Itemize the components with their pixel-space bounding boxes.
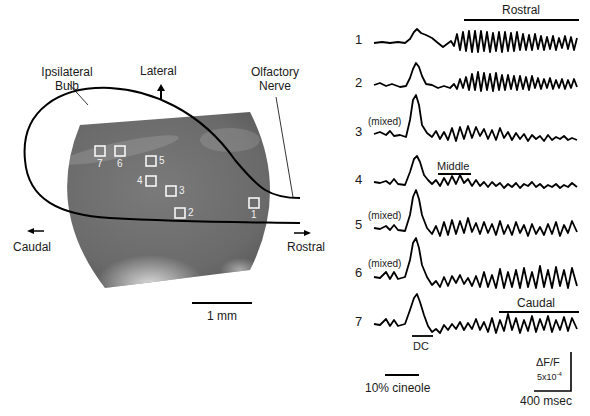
mixed-tag: (mixed) <box>368 258 401 269</box>
rostral-direction-label: Rostral <box>287 240 325 254</box>
label-line: Bulb <box>37 79 97 93</box>
caudal-direction-label: Caudal <box>13 240 51 254</box>
caudal-section-label: Caudal <box>517 296 555 310</box>
roi-label: 6 <box>117 158 123 169</box>
trace-number: 2 <box>355 75 362 90</box>
stimulus-label: 10% cineole <box>365 381 430 395</box>
lateral-label: Lateral <box>140 64 177 78</box>
mixed-tag: (mixed) <box>368 210 401 221</box>
scale-y-exponent: -4 <box>557 371 562 377</box>
trace-number: 6 <box>355 265 362 280</box>
bulb-image <box>40 100 300 315</box>
dc-label: DC <box>413 340 429 352</box>
trace-number: 1 <box>355 32 362 47</box>
mixed-tag: (mixed) <box>368 116 401 127</box>
ipsilateral-bulb-label: Ipsilateral Bulb <box>37 65 97 93</box>
trace-number: 4 <box>355 172 362 187</box>
rostral-section-label: Rostral <box>502 3 540 17</box>
middle-section-label: Middle <box>437 160 469 172</box>
roi-label: 1 <box>251 209 257 220</box>
roi-label: 7 <box>97 158 103 169</box>
figure-graphics <box>0 0 590 416</box>
trace-number: 3 <box>355 124 362 139</box>
roi-label: 5 <box>159 155 165 166</box>
scale-bar-label: 1 mm <box>207 309 237 323</box>
roi-label: 3 <box>179 185 185 196</box>
label-line: Nerve <box>243 79 307 93</box>
scale-y-value: 5x10-4 <box>537 371 562 382</box>
trace-number: 5 <box>355 217 362 232</box>
scale-y-mantissa: 5x10 <box>537 372 557 382</box>
traces <box>374 29 577 333</box>
olfactory-nerve-label: Olfactory Nerve <box>243 65 307 93</box>
scale-y-label: ΔF/F <box>536 356 560 368</box>
roi-label: 2 <box>188 207 194 218</box>
scale-x-label: 400 msec <box>520 394 572 408</box>
trace-number: 7 <box>355 314 362 329</box>
roi-label: 4 <box>137 175 143 186</box>
label-line: Olfactory <box>243 65 307 79</box>
label-line: Ipsilateral <box>37 65 97 79</box>
